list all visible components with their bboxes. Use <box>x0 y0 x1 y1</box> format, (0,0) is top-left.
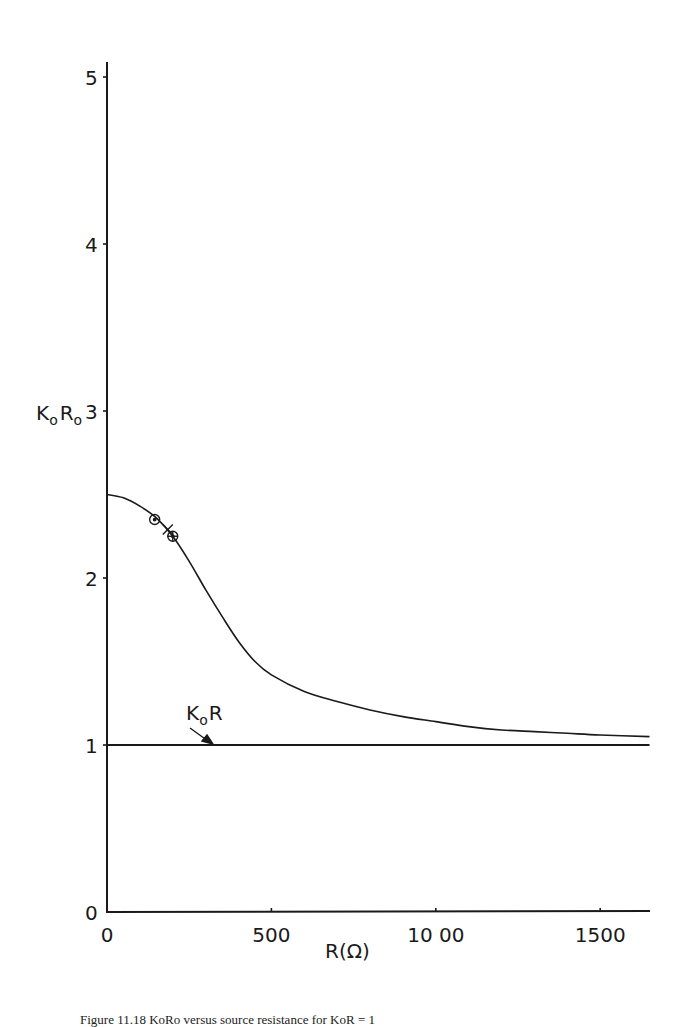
y-tick-label: 4 <box>85 233 98 257</box>
annotation-arrow <box>190 728 213 744</box>
chart: 012345 050010 001500 KoRo R(Ω) KoR <box>0 0 688 1000</box>
annotation-sub: o <box>199 712 208 728</box>
figure-caption: Figure 11.18 KoRo versus source resistan… <box>80 1012 375 1027</box>
marker-dot <box>153 518 155 520</box>
x-tick-label: 500 <box>252 923 290 947</box>
y-tick-label: 3 <box>85 400 98 424</box>
y-axis-label-sub1: o <box>49 412 58 428</box>
x-axis-line <box>106 911 650 912</box>
data-markers <box>150 515 178 542</box>
y-axis-label: KoRo <box>36 401 82 428</box>
caption-figure-label: Figure 11.18 <box>80 1012 146 1027</box>
y-tick-labels: 012345 <box>85 66 98 925</box>
annotation-k: K <box>186 701 200 725</box>
x-tick-label: 10 00 <box>407 923 464 947</box>
y-axis-label-r: R <box>60 401 74 425</box>
y-axis-label-sub2: o <box>74 412 83 428</box>
x-tick-label: 1500 <box>575 923 626 947</box>
annotation-r: R <box>209 701 223 725</box>
caption-text: KoRo versus source resistance for KoR = … <box>149 1012 375 1027</box>
y-axis-label-k: K <box>36 401 50 425</box>
kor-annotation: KoR <box>186 701 223 728</box>
axes <box>106 62 650 913</box>
x-tick-label: 0 <box>101 923 114 947</box>
y-tick-label: 0 <box>85 901 98 925</box>
y-tick-label: 5 <box>85 66 98 90</box>
y-tick-label: 1 <box>85 734 98 758</box>
y-tick-label: 2 <box>85 567 98 591</box>
x-axis-label: R(Ω) <box>325 939 370 963</box>
